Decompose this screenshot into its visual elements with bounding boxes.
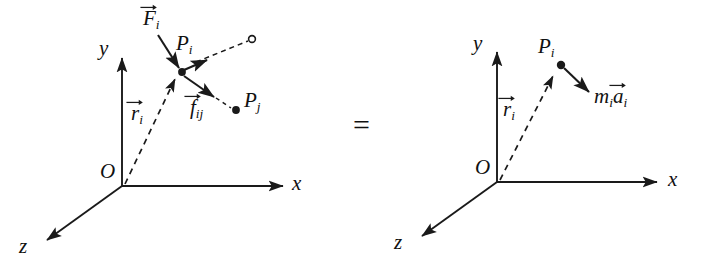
left-applied-force-label-Fi: Fi: [143, 8, 160, 31]
equals-sign: =: [353, 110, 370, 140]
right-point-i-dot: [557, 61, 565, 69]
right-point-label-Pi: Pi: [538, 36, 555, 59]
left-internal-force-label-fij: fij: [190, 97, 203, 120]
left-axis-label-x: x: [292, 173, 301, 194]
left-position-vector-ri: [125, 79, 175, 184]
right-inertia-vector-miai: [564, 68, 589, 92]
left-line-of-action-dashed: [196, 41, 248, 62]
right-panel-geometry: [422, 52, 657, 236]
left-line-of-action-open-circle: [249, 36, 256, 43]
left-panel-geometry: [47, 35, 283, 240]
left-internal-force-vector-fij: [184, 76, 214, 97]
right-axis-label-y: y: [473, 33, 482, 54]
left-position-vector-label-ri: ri: [131, 103, 143, 126]
left-z-axis: [47, 186, 122, 240]
right-position-vector-label-ri: ri: [503, 99, 515, 122]
right-origin-label: O: [475, 157, 490, 178]
left-point-label-Pi: Pi: [176, 33, 193, 56]
left-fij-continuation-dashed: [216, 98, 231, 108]
right-axis-label-x: x: [668, 169, 677, 190]
left-axis-label-z: z: [19, 236, 27, 257]
left-point-label-Pj: Pj: [244, 90, 261, 113]
right-axis-label-z: z: [394, 232, 402, 253]
left-reaction-force-vector: [184, 60, 207, 70]
physics-diagram-figure: = y x z O Fi Pi Pj: [0, 0, 706, 267]
right-position-vector-ri: [500, 76, 553, 180]
left-axis-label-y: y: [99, 38, 108, 59]
right-inertia-label-miai: mi ai: [594, 86, 627, 109]
left-point-j-dot: [232, 106, 240, 114]
left-point-i-dot: [178, 68, 186, 76]
left-origin-label: O: [100, 161, 115, 182]
right-z-axis: [422, 182, 497, 236]
